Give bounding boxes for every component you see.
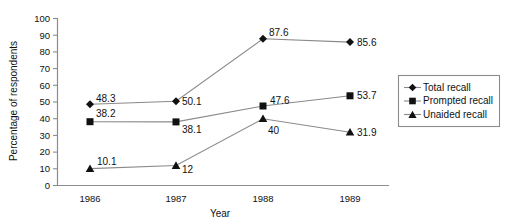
legend-label-prompted-recall: Prompted recall (423, 95, 493, 106)
data-point-total-1988 (259, 35, 267, 43)
line-chart: Percentage of respondents 0 10 20 30 40 … (0, 0, 505, 224)
data-label-prompted-1986: 38.2 (96, 108, 116, 119)
data-label-prompted-1989: 53.7 (357, 90, 377, 101)
data-point-prompted-1989 (347, 92, 354, 99)
square-marker-icon (409, 98, 416, 105)
y-tick-label-50: 50 (39, 96, 50, 107)
x-tick-label-1988: 1988 (252, 193, 273, 204)
y-tick-label-70: 70 (39, 63, 50, 74)
x-tick-label-1986: 1986 (79, 193, 100, 204)
data-label-unaided-1988: 40 (268, 125, 280, 136)
data-label-prompted-1988: 47.6 (270, 95, 290, 106)
x-tick-label-1987: 1987 (165, 193, 186, 204)
data-point-prompted-1986 (87, 118, 94, 125)
data-point-prompted-1988 (260, 103, 267, 110)
chart-canvas: Percentage of respondents 0 10 20 30 40 … (0, 0, 505, 224)
data-label-total-1988: 87.6 (269, 27, 289, 38)
y-tick-label-80: 80 (39, 46, 50, 57)
series-line-unaided-recall (90, 119, 350, 169)
data-point-total-1989 (346, 38, 354, 46)
data-label-prompted-1987: 38.1 (182, 124, 202, 135)
data-point-total-1986 (86, 100, 94, 108)
y-tick-label-90: 90 (39, 30, 50, 41)
legend-label-total-recall: Total recall (423, 82, 471, 93)
series-line-prompted-recall (90, 96, 350, 122)
data-point-total-1987 (172, 97, 180, 105)
y-tick-label-10: 10 (39, 163, 50, 174)
markers-unaided-recall (86, 115, 355, 173)
x-axis-tick-labels: 1986 1987 1988 1989 (79, 193, 360, 204)
legend-label-unaided-recall: Unaided recall (423, 109, 487, 120)
x-axis-title: Year (210, 208, 231, 219)
data-label-total-1986: 48.3 (96, 93, 116, 104)
markers-prompted-recall (87, 92, 354, 125)
y-tick-label-60: 60 (39, 80, 50, 91)
series-line-total-recall (90, 39, 350, 105)
y-tick-label-20: 20 (39, 146, 50, 157)
data-label-unaided-1986: 10.1 (97, 156, 117, 167)
legend: Total recall Prompted recall Unaided rec… (399, 76, 500, 127)
markers-total-recall (86, 35, 354, 109)
y-tick-label-40: 40 (39, 113, 50, 124)
y-axis-tick-labels: 0 10 20 30 40 50 60 70 80 90 100 (34, 13, 50, 191)
y-tick-label-100: 100 (34, 13, 50, 24)
data-label-total-1989: 85.6 (357, 37, 377, 48)
data-point-unaided-1988 (259, 115, 268, 123)
y-axis-ticks (53, 19, 58, 186)
y-axis-title: Percentage of respondents (8, 41, 19, 161)
data-label-unaided-1987: 12 (182, 164, 194, 175)
data-labels-total-recall: 48.3 50.1 87.6 85.6 (96, 27, 377, 107)
data-point-prompted-1987 (173, 118, 180, 125)
data-label-total-1987: 50.1 (182, 96, 202, 107)
data-labels-prompted-recall: 38.2 38.1 47.6 53.7 (96, 90, 377, 135)
data-label-unaided-1989: 31.9 (357, 127, 377, 138)
x-tick-label-1989: 1989 (339, 193, 360, 204)
y-tick-label-0: 0 (45, 180, 50, 191)
y-tick-label-30: 30 (39, 130, 50, 141)
